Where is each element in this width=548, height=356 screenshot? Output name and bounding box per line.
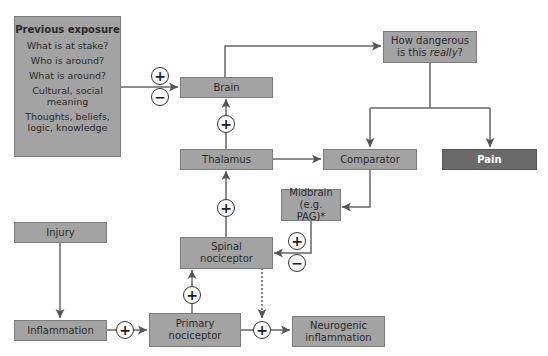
- plus-sign-midbrain-spinal: +: [288, 232, 306, 250]
- spinal-nociceptor-node: Spinal nociceptor: [180, 237, 273, 269]
- neurogenic-inflammation-label: Neurogenic inflammation: [303, 320, 374, 344]
- comparator-label: Comparator: [340, 154, 400, 166]
- primary-nociceptor-label: Primary nociceptor: [164, 318, 226, 342]
- minus-sign-midbrain-spinal: −: [288, 254, 306, 272]
- exposure-item: Thoughts, beliefs, logic, knowledge: [23, 111, 113, 133]
- plus-sign-inflammation-primary: +: [116, 321, 134, 339]
- plus-sign-primary-neurogenic: +: [253, 321, 271, 339]
- midbrain-label: Midbrain (e.g. PAG)*: [285, 187, 337, 223]
- exposure-item: What is at stake?: [27, 40, 109, 51]
- how-dangerous-label: How dangerous is this really?: [390, 35, 470, 59]
- brain-label: Brain: [213, 82, 239, 94]
- thalamus-label: Thalamus: [202, 154, 251, 166]
- exposure-item: Who is around?: [31, 55, 104, 66]
- inflammation-label: Inflammation: [27, 325, 93, 337]
- comparator-node: Comparator: [323, 149, 417, 170]
- pain-label: Pain: [477, 154, 501, 166]
- exposure-item: What is around?: [29, 70, 106, 81]
- injury-node: Injury: [14, 222, 107, 243]
- previous-exposure-title: Previous exposure: [15, 24, 119, 36]
- plus-sign-primary-spinal: +: [183, 286, 201, 304]
- brain-node: Brain: [180, 77, 273, 98]
- minus-sign-exposure-brain: −: [151, 88, 169, 106]
- plus-sign-exposure-brain: +: [151, 67, 169, 85]
- thalamus-node: Thalamus: [180, 149, 273, 170]
- pain-node: Pain: [442, 149, 537, 170]
- exposure-item: Cultural, social meaning: [28, 85, 108, 107]
- how-dangerous-node: How dangerous is this really?: [383, 31, 477, 63]
- primary-nociceptor-node: Primary nociceptor: [149, 313, 241, 347]
- previous-exposure-box: Previous exposure What is at stake? Who …: [14, 16, 121, 157]
- plus-sign-spinal-thalamus: +: [217, 199, 235, 217]
- plus-sign-thalamus-brain: +: [217, 115, 235, 133]
- injury-label: Injury: [46, 227, 74, 239]
- spinal-nociceptor-label: Spinal nociceptor: [197, 241, 256, 265]
- neurogenic-inflammation-node: Neurogenic inflammation: [292, 316, 385, 347]
- inflammation-node: Inflammation: [14, 320, 107, 341]
- midbrain-node: Midbrain (e.g. PAG)*: [281, 189, 341, 221]
